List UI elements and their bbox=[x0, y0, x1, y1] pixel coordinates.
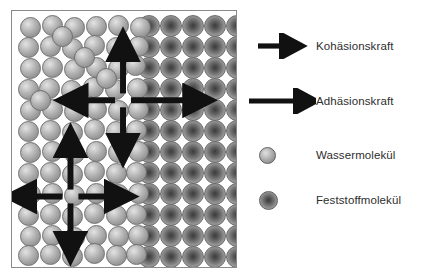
solid-molecule bbox=[160, 246, 182, 268]
water-molecule bbox=[64, 101, 85, 122]
solid-molecule bbox=[226, 246, 237, 268]
water-molecule bbox=[106, 205, 127, 226]
legend-item-wassermolekuel[interactable]: Wassermolekül bbox=[248, 142, 427, 168]
solid-molecule bbox=[204, 78, 226, 100]
solid-molecule bbox=[204, 57, 226, 79]
water-molecule bbox=[108, 15, 129, 36]
water-molecule bbox=[126, 204, 147, 225]
solid-molecule bbox=[226, 225, 237, 247]
water-molecule bbox=[106, 121, 127, 142]
water-molecule bbox=[30, 90, 51, 111]
water-molecule bbox=[74, 47, 95, 68]
solid-molecule bbox=[182, 183, 204, 205]
water-molecule bbox=[20, 17, 41, 38]
water-molecule bbox=[42, 141, 63, 162]
molecule-layer bbox=[12, 11, 236, 267]
water-molecule bbox=[18, 245, 39, 266]
water-molecule bbox=[42, 57, 63, 78]
water-molecule bbox=[64, 185, 85, 206]
solid-molecule bbox=[226, 15, 237, 37]
water-molecule bbox=[52, 26, 73, 47]
water-molecule bbox=[106, 37, 127, 58]
water-molecule bbox=[62, 206, 83, 227]
adhaesionskraft-arrow-icon bbox=[248, 88, 316, 114]
solid-molecule bbox=[226, 78, 237, 100]
water-molecule bbox=[40, 162, 61, 183]
solid-molecule bbox=[226, 141, 237, 163]
solid-molecule bbox=[182, 162, 204, 184]
solid-molecule-icon bbox=[248, 187, 316, 213]
water-molecule bbox=[64, 227, 85, 248]
water-molecule bbox=[108, 142, 129, 163]
water-molecule bbox=[84, 161, 105, 182]
solid-molecule bbox=[160, 15, 182, 37]
water-molecule bbox=[108, 226, 129, 247]
water-molecule bbox=[86, 16, 107, 37]
solid-molecule bbox=[160, 141, 182, 163]
water-molecule bbox=[20, 142, 41, 163]
water-molecule bbox=[127, 78, 148, 99]
water-molecule bbox=[18, 205, 39, 226]
water-molecule bbox=[106, 163, 127, 184]
water-molecule bbox=[126, 120, 147, 141]
water-molecule bbox=[42, 225, 63, 246]
solid-molecule bbox=[160, 162, 182, 184]
solid-molecule bbox=[204, 120, 226, 142]
water-molecule bbox=[126, 244, 147, 265]
water-molecule bbox=[128, 99, 149, 120]
solid-molecule bbox=[204, 183, 226, 205]
solid-molecule bbox=[160, 78, 182, 100]
solid-molecule bbox=[182, 57, 204, 79]
water-molecule bbox=[61, 80, 82, 101]
solid-molecule bbox=[204, 204, 226, 226]
solid-molecule bbox=[182, 246, 204, 268]
solid-molecule bbox=[204, 162, 226, 184]
solid-molecule bbox=[182, 36, 204, 58]
kohaesionskraft-arrow-icon bbox=[248, 33, 316, 59]
water-molecule bbox=[40, 244, 61, 265]
water-molecule bbox=[62, 246, 83, 267]
solid-molecule bbox=[182, 78, 204, 100]
water-molecule bbox=[62, 164, 83, 185]
water-molecule bbox=[128, 141, 149, 162]
legend-item-kohaesionskraft[interactable]: Kohäsionskraft bbox=[248, 33, 427, 59]
figure-root: Kohäsionskraft Adhäsionskraft bbox=[0, 0, 427, 280]
solid-molecule bbox=[182, 204, 204, 226]
solid-molecule bbox=[204, 141, 226, 163]
solid-molecule bbox=[160, 57, 182, 79]
water-molecule bbox=[42, 183, 63, 204]
water-molecule-icon bbox=[248, 142, 316, 168]
water-molecule bbox=[20, 58, 41, 79]
water-molecule bbox=[128, 183, 149, 204]
water-molecule bbox=[62, 122, 83, 143]
water-molecule bbox=[18, 37, 39, 58]
solid-molecule bbox=[182, 99, 204, 121]
solid-molecule bbox=[226, 162, 237, 184]
solid-molecule bbox=[204, 225, 226, 247]
water-molecule bbox=[126, 162, 147, 183]
legend-item-adhaesionskraft[interactable]: Adhäsionskraft bbox=[248, 88, 427, 114]
molecule-container bbox=[11, 10, 237, 268]
legend-item-feststoffmolekuel[interactable]: Feststoffmolekül bbox=[248, 187, 427, 213]
solid-molecule bbox=[226, 204, 237, 226]
solid-molecule bbox=[182, 225, 204, 247]
solid-molecule bbox=[160, 36, 182, 58]
solid-molecule bbox=[160, 225, 182, 247]
legend-label-feststoffmolekuel: Feststoffmolekül bbox=[316, 187, 401, 213]
water-molecule bbox=[125, 55, 146, 76]
legend-label-kohaesionskraft: Kohäsionskraft bbox=[316, 33, 393, 59]
solid-molecule bbox=[182, 141, 204, 163]
water-molecule bbox=[108, 184, 129, 205]
water-molecule bbox=[18, 163, 39, 184]
solid-molecule bbox=[182, 120, 204, 142]
solid-molecule bbox=[204, 36, 226, 58]
water-molecule bbox=[40, 204, 61, 225]
water-molecule bbox=[20, 184, 41, 205]
water-molecule bbox=[128, 36, 149, 57]
solid-molecule bbox=[226, 57, 237, 79]
water-molecule bbox=[86, 99, 107, 120]
water-molecule bbox=[108, 100, 129, 121]
solid-molecule bbox=[182, 15, 204, 37]
water-molecule bbox=[130, 17, 151, 38]
water-molecule bbox=[18, 121, 39, 142]
